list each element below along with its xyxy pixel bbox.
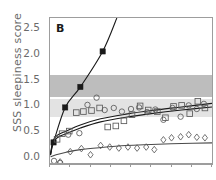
x-tick-mark bbox=[130, 163, 131, 167]
marker-open-circle bbox=[178, 114, 183, 119]
marker-open-circle bbox=[119, 109, 124, 114]
x-tick-mark bbox=[171, 163, 172, 167]
marker-open-circle bbox=[128, 106, 133, 111]
y-tick-label: 2.5 bbox=[14, 22, 40, 33]
marker-open-diamond bbox=[152, 146, 157, 153]
marker-filled-square bbox=[63, 105, 68, 110]
open-squares bbox=[54, 98, 207, 142]
marker-open-diamond bbox=[125, 144, 130, 151]
y-tick-label: 1.0 bbox=[14, 99, 40, 110]
marker-open-diamond bbox=[88, 151, 93, 158]
marker-open-square bbox=[113, 123, 119, 129]
steep-linear-fit bbox=[51, 18, 117, 155]
x-tick-mark bbox=[150, 163, 151, 167]
marker-open-square bbox=[89, 108, 95, 114]
y-tick-label: 0.5 bbox=[14, 125, 40, 136]
y-tick-label: 1.5 bbox=[14, 74, 40, 85]
marker-open-diamond bbox=[186, 131, 191, 138]
marker-open-circle bbox=[85, 102, 90, 107]
x-tick-mark bbox=[49, 163, 50, 167]
x-tick-mark bbox=[69, 163, 70, 167]
marker-open-circle bbox=[161, 117, 166, 122]
marker-open-diamond bbox=[194, 134, 199, 141]
y-tick-label: 2.0 bbox=[14, 48, 40, 59]
open-circles bbox=[51, 95, 206, 164]
marker-open-circle bbox=[77, 130, 82, 135]
marker-open-circle bbox=[94, 95, 99, 100]
marker-open-square bbox=[105, 124, 111, 130]
y-tick-label: 0.0 bbox=[14, 151, 40, 162]
marker-open-square bbox=[81, 109, 87, 115]
y-axis-tick-labels: 0.00.51.01.52.02.5 bbox=[14, 0, 40, 180]
marker-open-square bbox=[195, 98, 201, 104]
x-tick-mark bbox=[211, 163, 212, 167]
x-tick-mark bbox=[110, 163, 111, 167]
upper-log-fit-b bbox=[51, 107, 212, 155]
marker-open-diamond bbox=[169, 134, 174, 141]
marker-filled-square bbox=[78, 84, 83, 89]
marker-open-diamond bbox=[161, 137, 166, 144]
marker-open-square bbox=[121, 118, 127, 124]
marker-open-diamond bbox=[202, 134, 207, 141]
marker-open-square bbox=[187, 111, 193, 117]
marker-open-square bbox=[74, 110, 80, 116]
x-tick-mark bbox=[90, 163, 91, 167]
x-tick-mark bbox=[191, 163, 192, 167]
data-overlay bbox=[50, 18, 212, 164]
chart-figure: SSS sleepiness score 0.00.51.01.52.02.5 … bbox=[0, 0, 216, 180]
marker-open-circle bbox=[111, 105, 116, 110]
marker-filled-square bbox=[100, 49, 105, 54]
marker-open-diamond bbox=[79, 145, 84, 152]
marker-open-diamond bbox=[178, 133, 183, 140]
marker-open-diamond bbox=[134, 145, 139, 152]
lower-log-fit bbox=[51, 143, 212, 157]
plot-area: B bbox=[49, 17, 213, 165]
open-diamonds bbox=[58, 131, 208, 164]
